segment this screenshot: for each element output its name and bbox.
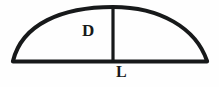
height-label-d: D — [82, 22, 94, 39]
arc-curve — [13, 7, 207, 61]
length-label-l: L — [116, 64, 127, 80]
figure-container: D L — [0, 0, 219, 87]
segment-diagram-svg — [0, 0, 219, 87]
